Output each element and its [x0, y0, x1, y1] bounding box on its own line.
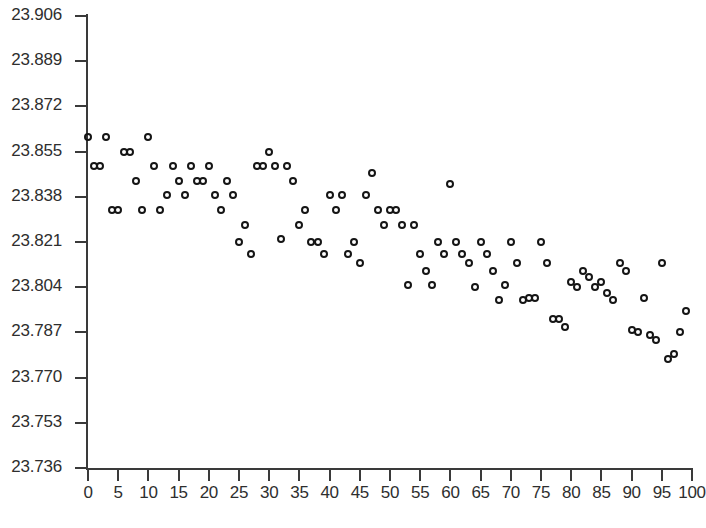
data-point [446, 180, 454, 188]
data-point [495, 296, 503, 304]
data-point [670, 350, 678, 358]
data-point [555, 315, 563, 323]
data-point [489, 267, 497, 275]
data-point [223, 177, 231, 185]
data-point [609, 296, 617, 304]
data-point [616, 259, 624, 267]
data-point [126, 148, 134, 156]
data-point [235, 238, 243, 246]
data-point [265, 148, 273, 156]
data-point [96, 162, 104, 170]
data-point [241, 221, 249, 229]
data-point [513, 259, 521, 267]
data-point [350, 238, 358, 246]
data-point [344, 250, 352, 258]
data-point [283, 162, 291, 170]
data-point [320, 250, 328, 258]
data-point [326, 191, 334, 199]
data-point [150, 162, 158, 170]
data-point [289, 177, 297, 185]
data-point [537, 238, 545, 246]
data-point [410, 221, 418, 229]
data-point [658, 259, 666, 267]
data-point [356, 259, 364, 267]
data-point [597, 278, 605, 286]
data-point [603, 289, 611, 297]
data-point [338, 191, 346, 199]
data-point [434, 238, 442, 246]
data-point [132, 177, 140, 185]
data-point [156, 206, 164, 214]
data-point [102, 133, 110, 141]
data-point [471, 283, 479, 291]
data-point [458, 250, 466, 258]
data-point [501, 281, 509, 289]
data-point [205, 162, 213, 170]
data-point [452, 238, 460, 246]
data-point [211, 191, 219, 199]
data-point [622, 267, 630, 275]
data-point [199, 177, 207, 185]
data-point [163, 191, 171, 199]
data-point [332, 206, 340, 214]
data-point [247, 250, 255, 258]
data-point [169, 162, 177, 170]
data-point [404, 281, 412, 289]
data-point [416, 250, 424, 258]
data-point [561, 323, 569, 331]
data-point [422, 267, 430, 275]
data-point [368, 169, 376, 177]
data-point [187, 162, 195, 170]
data-point [440, 250, 448, 258]
data-point [114, 206, 122, 214]
data-point [682, 307, 690, 315]
data-point [585, 273, 593, 281]
data-point [374, 206, 382, 214]
data-point [259, 162, 267, 170]
data-point [229, 191, 237, 199]
data-point [640, 294, 648, 302]
data-point [428, 281, 436, 289]
data-point [362, 191, 370, 199]
data-point [138, 206, 146, 214]
data-point [507, 238, 515, 246]
data-point [392, 206, 400, 214]
data-point [181, 191, 189, 199]
data-point [217, 206, 225, 214]
data-point [301, 206, 309, 214]
data-point [483, 250, 491, 258]
data-point [314, 238, 322, 246]
data-point [531, 294, 539, 302]
data-point [175, 177, 183, 185]
data-point [84, 133, 92, 141]
data-point [573, 283, 581, 291]
data-point [477, 238, 485, 246]
data-point [398, 221, 406, 229]
data-point [295, 221, 303, 229]
data-point [271, 162, 279, 170]
data-point [634, 328, 642, 336]
data-point [543, 259, 551, 267]
data-point [676, 328, 684, 336]
data-point [652, 336, 660, 344]
data-point [277, 235, 285, 243]
data-point [144, 133, 152, 141]
data-point [465, 259, 473, 267]
data-point [380, 221, 388, 229]
